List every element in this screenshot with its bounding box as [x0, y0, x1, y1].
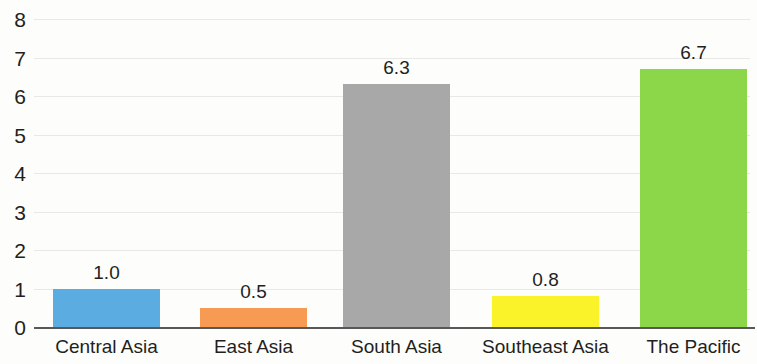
bar — [200, 308, 307, 327]
bar — [492, 296, 599, 327]
bar — [640, 69, 747, 327]
bar-value-label: 6.7 — [640, 43, 747, 62]
bar-value-label: 0.5 — [200, 282, 307, 301]
y-axis-tick-label: 8 — [4, 9, 26, 30]
bar-value-label: 1.0 — [53, 263, 160, 282]
y-axis-tick-label: 1 — [4, 279, 26, 300]
bar — [343, 84, 450, 327]
y-axis-tick-label: 3 — [4, 202, 26, 223]
y-axis-tick-label: 2 — [4, 240, 26, 261]
y-axis-tick-label: 0 — [4, 317, 26, 338]
y-axis-tick-label: 7 — [4, 48, 26, 69]
y-axis-tick-label: 4 — [4, 163, 26, 184]
bar-value-label: 0.8 — [492, 270, 599, 289]
x-axis-line — [34, 327, 755, 329]
bar — [53, 289, 160, 328]
x-axis-category-label: The Pacific — [604, 337, 757, 356]
y-axis-tick-label: 6 — [4, 86, 26, 107]
bar-value-label: 6.3 — [343, 58, 450, 77]
bar-chart: 876543210 1.00.56.30.86.7 Central AsiaEa… — [0, 0, 757, 364]
gridline — [34, 19, 750, 20]
y-axis-tick-label: 5 — [4, 125, 26, 146]
plot-area: 876543210 1.00.56.30.86.7 Central AsiaEa… — [0, 0, 757, 364]
